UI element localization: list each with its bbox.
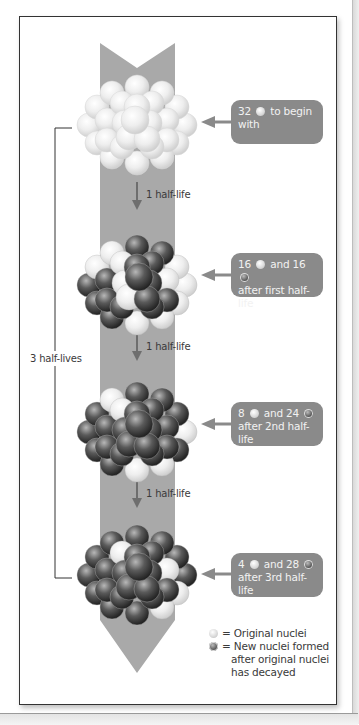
nuclei-cluster-start	[77, 75, 197, 175]
nuclei-cluster-half-life-2	[77, 382, 197, 482]
original-nucleus-icon	[256, 107, 265, 116]
label-text: after 3rd half-life	[238, 571, 307, 596]
label-text: with	[238, 118, 259, 130]
count-original: 16	[238, 258, 251, 270]
legend: = Original nuclei = New nuclei formed af…	[209, 627, 329, 679]
bracket-label: 3 half-lives	[30, 351, 82, 366]
nuclei-cluster-half-life-3	[77, 525, 197, 625]
original-nucleus-icon	[250, 560, 259, 569]
count-original: 32	[238, 105, 251, 117]
new-nucleus-icon	[209, 642, 218, 651]
stage-label-half-life-1: 16 and 16 after first half-life	[231, 253, 323, 297]
step-label-3: 1 half-life	[146, 488, 190, 499]
stage-label-start: 32 to begin with	[231, 100, 323, 144]
legend-new-text: after original nuclei	[222, 653, 329, 666]
count-new: and 24	[264, 407, 299, 419]
label-text: to begin	[270, 105, 312, 117]
original-nucleus-icon	[209, 629, 218, 638]
label-pointer-arrows	[201, 116, 232, 580]
legend-new-text: has decayed	[222, 666, 329, 679]
step-label-1: 1 half-life	[146, 189, 190, 200]
legend-new: = New nuclei formed after original nucle…	[209, 640, 329, 679]
nuclei-cluster-half-life-1	[77, 235, 197, 335]
new-nucleus-icon	[304, 560, 313, 569]
count-new: and 28	[264, 558, 299, 570]
legend-original-text: = Original nuclei	[222, 627, 307, 640]
legend-new-text: = New nuclei formed	[222, 640, 329, 653]
step-label-2: 1 half-life	[146, 341, 190, 352]
count-new: and 16	[270, 258, 305, 270]
count-original: 8	[238, 407, 244, 419]
new-nucleus-icon	[240, 273, 249, 282]
legend-original: = Original nuclei	[209, 627, 329, 640]
stage-label-half-life-3: 4 and 28 after 3rd half-life	[231, 553, 323, 597]
count-original: 4	[238, 558, 244, 570]
stage-label-half-life-2: 8 and 24 after 2nd half-life	[231, 402, 323, 446]
original-nucleus-icon	[250, 409, 259, 418]
original-nucleus-icon	[256, 260, 265, 269]
label-text: after 2nd half-life	[238, 420, 309, 445]
new-nucleus-icon	[304, 409, 313, 418]
